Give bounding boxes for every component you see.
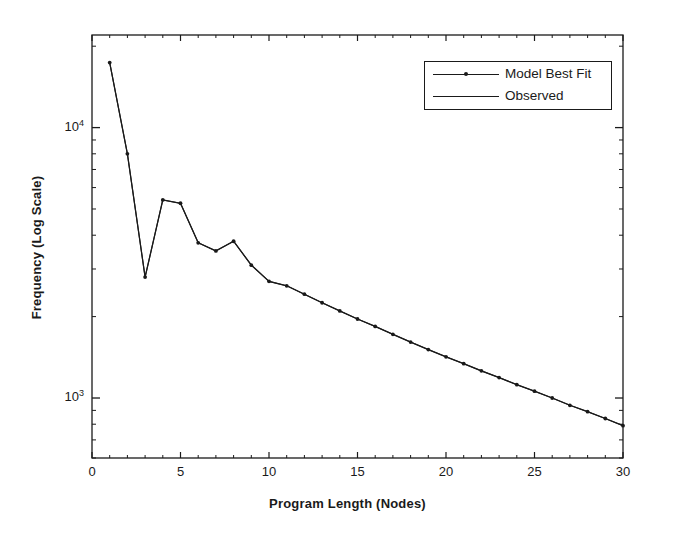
y-axis-label: Frequency (Log Scale) xyxy=(29,128,44,368)
chart-legend: Model Best Fit Observed xyxy=(424,61,612,110)
series-line xyxy=(110,63,623,426)
legend-swatch-observed xyxy=(433,86,499,108)
legend-label-observed: Observed xyxy=(505,88,564,103)
x-tick-label: 30 xyxy=(598,464,648,479)
x-tick-label: 0 xyxy=(67,464,117,479)
chart-figure: 051015202530 103104 Program Length (Node… xyxy=(0,0,695,538)
x-tick-label: 5 xyxy=(156,464,206,479)
x-tick-label: 20 xyxy=(421,464,471,479)
legend-label-model-best-fit: Model Best Fit xyxy=(505,66,591,81)
x-tick-label: 25 xyxy=(510,464,560,479)
x-tick-label: 10 xyxy=(244,464,294,479)
x-tick-label: 15 xyxy=(333,464,383,479)
legend-entry-observed: Observed xyxy=(425,86,613,108)
legend-swatch-model-best-fit xyxy=(433,64,499,86)
series-line xyxy=(110,63,623,426)
legend-dot-marker-icon xyxy=(464,72,468,76)
legend-entry-model-best-fit: Model Best Fit xyxy=(425,64,613,86)
data-series-group xyxy=(108,61,625,428)
x-axis-label: Program Length (Nodes) xyxy=(0,496,695,511)
legend-line-icon xyxy=(433,96,499,97)
y-tick-label: 103 xyxy=(30,388,84,404)
